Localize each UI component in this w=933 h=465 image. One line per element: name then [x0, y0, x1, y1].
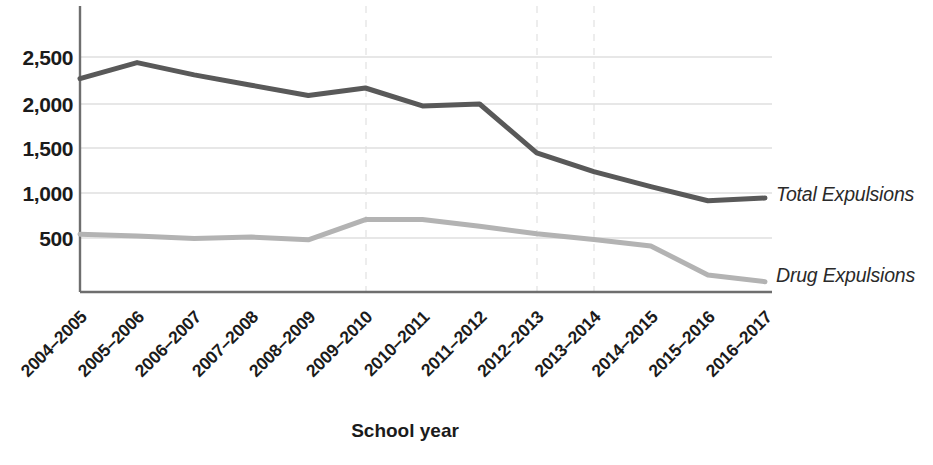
y-tick-2000: 2,000 [22, 93, 73, 116]
vertical-gridlines [366, 6, 594, 292]
y-tick-500: 500 [39, 227, 73, 250]
x-axis-title: School year [351, 420, 459, 441]
horizontal-gridlines [80, 57, 772, 238]
line-chart: 2,500 2,000 1,500 1,000 500 2004–2005200… [0, 0, 933, 465]
chart-container: 2,500 2,000 1,500 1,000 500 2004–2005200… [0, 0, 933, 465]
y-tick-labels: 2,500 2,000 1,500 1,000 500 [22, 46, 73, 250]
series-label-drug-expulsions: Drug Expulsions [776, 264, 915, 286]
y-tick-1000: 1,000 [22, 182, 73, 205]
axis-lines [80, 6, 772, 292]
y-tick-2500: 2,500 [22, 46, 73, 69]
x-tick-labels: 2004–20052005–20062006–20072007–20082008… [17, 306, 776, 381]
y-tick-1500: 1,500 [22, 137, 73, 160]
series-label-total-expulsions: Total Expulsions [776, 183, 915, 205]
series-line-drug-expulsions [80, 220, 765, 282]
series-line-total-expulsions [80, 63, 765, 201]
